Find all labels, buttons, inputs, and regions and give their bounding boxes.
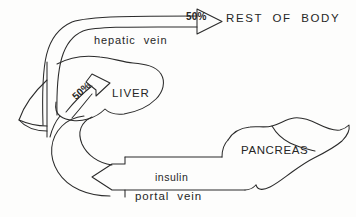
label-split-to-body: 50%	[186, 12, 207, 22]
flow-diagram-graphic	[0, 0, 356, 217]
label-rest-of-body: REST OF BODY	[226, 13, 340, 25]
label-liver: LIVER	[112, 88, 150, 100]
pancreas-lower-connector	[245, 185, 256, 190]
portal-vein-inner-wall	[80, 117, 112, 165]
liver-lower-notch	[50, 116, 60, 137]
hepatic-vein-outer-wall	[43, 16, 197, 125]
label-pancreas: PANCREAS	[241, 145, 308, 157]
label-hepatic-vein: hepatic vein	[94, 35, 167, 46]
label-portal-vein: portal vein	[135, 191, 202, 203]
portal-vein-arrowhead	[92, 157, 125, 197]
diagram-canvas: REST OF BODY hepatic vein LIVER PANCREAS…	[0, 0, 356, 217]
pancreas-upper-connector	[222, 140, 228, 157]
label-insulin: insulin	[155, 172, 188, 183]
